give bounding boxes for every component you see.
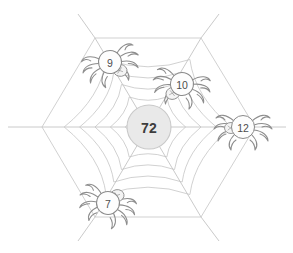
spider-label-7: 7 bbox=[105, 198, 111, 210]
center-total-label: 72 bbox=[141, 120, 157, 136]
spider-bottom-left[interactable]: 7 bbox=[73, 176, 142, 235]
spider-top-right[interactable]: 10 bbox=[149, 67, 213, 113]
spider-label-10: 10 bbox=[176, 79, 188, 91]
spider-web-graphic: 72 9 bbox=[0, 0, 293, 253]
spider-web-puzzle: 72 9 bbox=[0, 0, 293, 253]
spider-right[interactable]: 12 bbox=[214, 115, 272, 150]
spider-top-left[interactable]: 9 bbox=[79, 42, 145, 93]
spider-label-9: 9 bbox=[107, 57, 113, 69]
spider-label-12: 12 bbox=[237, 122, 249, 134]
center-node: 72 bbox=[127, 105, 171, 149]
